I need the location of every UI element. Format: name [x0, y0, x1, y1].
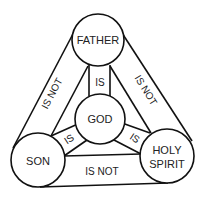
edge-label-spirit-god: IS [128, 131, 142, 146]
label-father: FATHER [77, 34, 120, 46]
label-holy-spirit-line2: SPIRIT [149, 158, 185, 170]
label-god: GOD [87, 113, 112, 125]
edge-label-son-god: IS [62, 132, 76, 147]
label-son: SON [26, 155, 50, 167]
edge-label-son-spirit: IS NOT [85, 166, 118, 177]
label-holy-spirit-line1: HOLY [152, 144, 182, 156]
trinity-diagram: FATHER GOD SON HOLY SPIRIT IS NOT IS NOT… [0, 0, 207, 201]
edge-label-father-spirit: IS NOT [132, 73, 159, 107]
node-holy-spirit [140, 129, 194, 183]
edge-label-father-son: IS NOT [39, 76, 64, 111]
edge-label-father-god: IS [95, 77, 105, 88]
